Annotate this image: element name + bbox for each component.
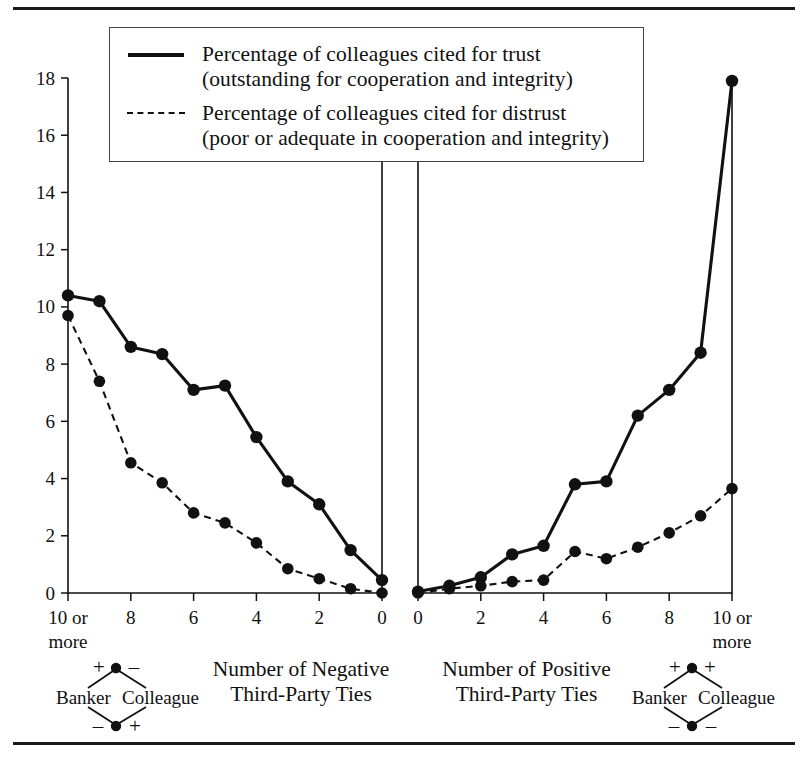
data-point-left-panel-solid-9	[344, 544, 356, 556]
triad-right-top-node-icon	[687, 663, 697, 673]
data-point-right-panel-dashed-6	[601, 553, 613, 565]
legend-key-dashed-icon	[110, 101, 202, 114]
data-point-left-panel-dashed-9	[345, 583, 357, 595]
data-point-right-panel-dashed-0	[412, 587, 424, 599]
x-tick-label-left-panel-10: 0	[377, 607, 387, 628]
x-tick-label-right-panel-0: 0	[413, 607, 423, 628]
caption-left-line2: Third-Party Ties	[196, 682, 406, 707]
triad-right-banker-label: Banker	[632, 687, 688, 708]
data-point-right-panel-dashed-4	[538, 574, 550, 586]
triad-left-bottom-node-icon	[111, 721, 121, 731]
triad-right-sign-bottom-left: –	[668, 714, 680, 738]
series-line-left-panel-dashed	[68, 316, 382, 594]
x-tick-label-left-panel-0-a: 10 or	[48, 607, 88, 628]
x-tick-label-right-panel-6: 6	[602, 607, 612, 628]
x-tick-label-left-panel-8: 2	[314, 607, 324, 628]
series-line-right-panel-dashed	[418, 489, 732, 593]
triad-left-banker-label: Banker	[56, 687, 112, 708]
data-point-left-panel-solid-8	[313, 498, 325, 510]
caption-left-panel: Number of Negative Third-Party Ties	[196, 657, 406, 707]
data-point-left-panel-dashed-4	[188, 507, 200, 519]
data-point-right-panel-solid-10	[726, 75, 738, 87]
data-point-left-panel-dashed-7	[282, 563, 294, 575]
caption-right-line1: Number of Positive	[424, 657, 629, 682]
data-point-right-panel-solid-8	[663, 384, 675, 396]
data-point-left-panel-dashed-3	[156, 477, 168, 489]
triad-left-sign-top-right: –	[128, 655, 140, 679]
data-point-left-panel-solid-2	[125, 341, 137, 353]
data-point-left-panel-solid-1	[93, 295, 105, 307]
data-point-right-panel-dashed-1	[444, 583, 456, 595]
legend-distrust-line1: Percentage of colleagues cited for distr…	[202, 101, 566, 125]
legend-entry-trust: Percentage of colleagues cited for trust…	[110, 42, 643, 92]
data-point-left-panel-dashed-10	[376, 587, 388, 599]
data-point-left-panel-dashed-8	[313, 573, 325, 585]
data-point-right-panel-solid-9	[694, 347, 706, 359]
x-tick-label-right-panel-10-b: more	[712, 631, 751, 652]
data-point-left-panel-solid-6	[250, 431, 262, 443]
data-point-left-panel-solid-4	[187, 384, 199, 396]
data-point-right-panel-solid-7	[632, 409, 644, 421]
y-tick-label-2: 2	[46, 525, 56, 546]
data-point-right-panel-dashed-5	[569, 546, 581, 558]
data-point-left-panel-solid-5	[219, 379, 231, 391]
data-point-left-panel-solid-3	[156, 348, 168, 360]
x-tick-label-right-panel-4: 4	[539, 607, 549, 628]
caption-right-line2: Third-Party Ties	[424, 682, 629, 707]
data-point-left-panel-dashed-1	[94, 376, 106, 388]
data-point-right-panel-dashed-10	[726, 483, 738, 495]
y-tick-label-4: 4	[46, 468, 56, 489]
figure-root: 02468101214161810 ormore864200246810 orm…	[0, 0, 808, 763]
triad-diagram-negative: + – – + Banker Colleague	[56, 655, 226, 737]
legend-trust-line1: Percentage of colleagues cited for trust	[202, 42, 541, 66]
x-tick-label-left-panel-6: 4	[252, 607, 262, 628]
caption-right-panel: Number of Positive Third-Party Ties	[424, 657, 629, 707]
data-point-right-panel-dashed-9	[695, 510, 707, 522]
data-point-right-panel-solid-4	[537, 540, 549, 552]
data-point-left-panel-dashed-0	[62, 310, 74, 322]
x-tick-label-left-panel-4: 6	[189, 607, 199, 628]
triad-left-top-node-icon	[111, 663, 121, 673]
data-point-right-panel-solid-5	[569, 478, 581, 490]
triad-right-sign-top-left: +	[669, 655, 681, 679]
triad-right-sign-bottom-right: –	[705, 714, 717, 738]
data-point-left-panel-dashed-2	[125, 457, 137, 469]
triad-right-bottom-node-icon	[687, 721, 697, 731]
x-tick-label-left-panel-2: 8	[126, 607, 136, 628]
y-tick-label-6: 6	[46, 411, 56, 432]
y-tick-label-18: 18	[36, 68, 55, 89]
data-point-left-panel-solid-0	[62, 289, 74, 301]
data-point-left-panel-solid-10	[376, 574, 388, 586]
triad-left-sign-top-left: +	[93, 655, 105, 679]
data-point-right-panel-dashed-2	[475, 580, 487, 592]
y-tick-label-0: 0	[46, 583, 56, 604]
x-tick-label-right-panel-8: 8	[664, 607, 674, 628]
y-tick-label-16: 16	[36, 125, 55, 146]
y-tick-label-14: 14	[36, 182, 56, 203]
legend-distrust-line2: (poor or adequate in cooperation and int…	[202, 126, 609, 151]
x-tick-label-right-panel-2: 2	[476, 607, 486, 628]
triad-left-sign-bottom-right: +	[129, 714, 141, 738]
x-tick-label-left-panel-0-b: more	[48, 631, 87, 652]
triad-right-sign-top-right: +	[704, 655, 716, 679]
data-point-right-panel-dashed-3	[506, 576, 518, 588]
legend-label-trust: Percentage of colleagues cited for trust…	[202, 42, 573, 92]
data-point-right-panel-solid-3	[506, 548, 518, 560]
data-point-left-panel-dashed-6	[251, 537, 263, 549]
legend-entry-distrust: Percentage of colleagues cited for distr…	[110, 101, 643, 151]
legend-label-distrust: Percentage of colleagues cited for distr…	[202, 101, 609, 151]
triad-left-colleague-label: Colleague	[122, 687, 199, 708]
series-line-left-panel-solid	[68, 295, 382, 580]
data-point-left-panel-dashed-5	[219, 517, 231, 529]
triad-right-colleague-label: Colleague	[698, 687, 775, 708]
triad-left-sign-bottom-left: –	[92, 714, 104, 738]
legend: Percentage of colleagues cited for trust…	[109, 27, 644, 162]
legend-key-solid-icon	[110, 42, 202, 57]
caption-left-line1: Number of Negative	[196, 657, 406, 682]
x-tick-label-right-panel-10-a: 10 or	[712, 607, 752, 628]
y-tick-label-10: 10	[36, 296, 55, 317]
data-point-right-panel-dashed-8	[663, 527, 675, 539]
data-point-left-panel-solid-7	[282, 475, 294, 487]
y-tick-label-12: 12	[36, 239, 55, 260]
data-point-right-panel-solid-6	[600, 475, 612, 487]
